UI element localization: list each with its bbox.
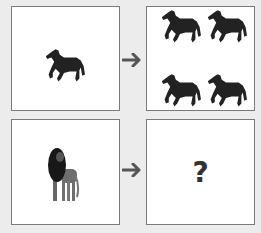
horse-icon	[159, 74, 201, 108]
horse-icon	[205, 74, 247, 108]
lion-icon	[47, 147, 81, 207]
bottom-right-panel: ?	[146, 119, 255, 225]
horse-icon	[159, 10, 201, 44]
right-arrow-icon	[122, 53, 142, 67]
horse-icon	[205, 10, 247, 44]
bottom-left-panel	[11, 119, 120, 225]
top-right-panel	[146, 6, 255, 111]
right-arrow-icon	[122, 163, 142, 177]
horse-icon	[43, 49, 85, 83]
top-left-panel	[11, 6, 120, 111]
question-mark: ?	[147, 120, 254, 224]
